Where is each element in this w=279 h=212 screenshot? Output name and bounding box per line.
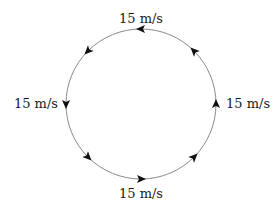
speed-label-top: 15 m/s xyxy=(119,11,163,26)
speed-label-bottom: 15 m/s xyxy=(119,186,163,201)
speed-label-right: 15 m/s xyxy=(226,96,270,111)
circular-motion-diagram: 15 m/s 15 m/s 15 m/s 15 m/s xyxy=(0,0,279,212)
direction-arrows xyxy=(62,25,220,183)
speed-label-left: 15 m/s xyxy=(14,96,58,111)
